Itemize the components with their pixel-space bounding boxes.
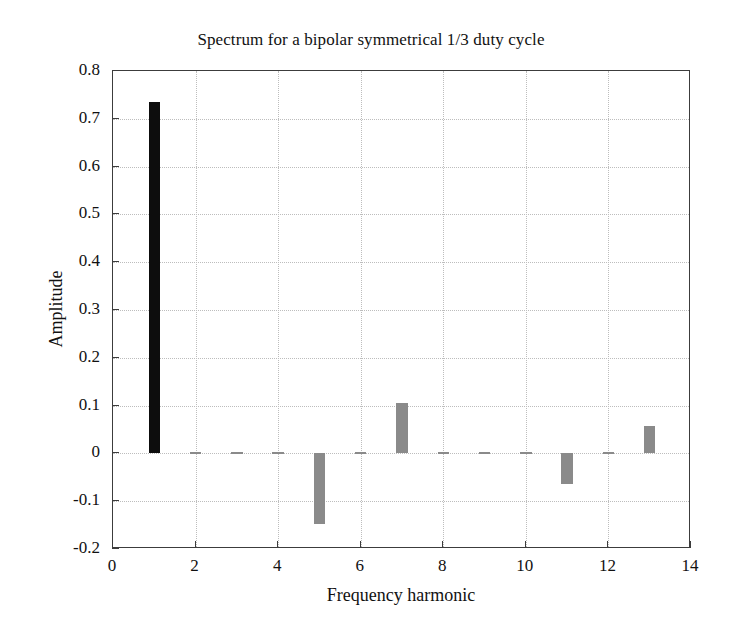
- x-axis-label: Frequency harmonic: [112, 585, 690, 606]
- x-tick-mark: [360, 541, 361, 548]
- bar-harmonic-5: [314, 453, 326, 523]
- x-tick-mark: [525, 541, 526, 548]
- y-tick-label: 0.8: [0, 60, 100, 80]
- gridline-vertical: [443, 71, 444, 547]
- y-tick-label: -0.2: [0, 538, 100, 558]
- x-tick-mark: [690, 541, 691, 548]
- chart-title: Spectrum for a bipolar symmetrical 1/3 d…: [0, 30, 742, 50]
- gridline-horizontal: [113, 167, 689, 168]
- gridline-vertical: [526, 71, 527, 547]
- y-tick-mark: [112, 405, 119, 406]
- y-tick-mark: [112, 261, 119, 262]
- gridline-horizontal: [113, 119, 689, 120]
- gridline-horizontal: [113, 358, 689, 359]
- gridline-vertical: [608, 71, 609, 547]
- y-tick-mark: [112, 118, 119, 119]
- y-tick-label: 0.7: [0, 108, 100, 128]
- y-tick-mark: [112, 500, 119, 501]
- x-axis-label-area: [112, 552, 690, 580]
- page-margin: [0, 0, 742, 14]
- y-tick-mark: [112, 548, 119, 549]
- gridline-vertical: [278, 71, 279, 547]
- bar-harmonic-10: [520, 452, 532, 454]
- gridline-horizontal: [113, 214, 689, 215]
- gridline-horizontal: [113, 501, 689, 502]
- y-tick-label: 0.4: [0, 251, 100, 271]
- bar-harmonic-4: [272, 452, 284, 454]
- plot-area: [112, 70, 690, 548]
- bar-harmonic-2: [190, 452, 202, 454]
- x-tick-mark: [277, 541, 278, 548]
- y-tick-label: 0.6: [0, 156, 100, 176]
- y-tick-label: 0.2: [0, 347, 100, 367]
- figure: Spectrum for a bipolar symmetrical 1/3 d…: [0, 0, 742, 634]
- y-tick-label: 0: [0, 442, 100, 462]
- gridline-horizontal: [113, 262, 689, 263]
- y-tick-label: 0.3: [0, 299, 100, 319]
- y-tick-label: 0.5: [0, 203, 100, 223]
- y-tick-mark: [112, 309, 119, 310]
- bar-harmonic-8: [438, 452, 450, 454]
- x-tick-mark: [195, 541, 196, 548]
- bar-harmonic-13: [644, 426, 656, 454]
- bar-harmonic-3: [231, 452, 243, 454]
- gridline-vertical: [361, 71, 362, 547]
- bar-harmonic-9: [479, 452, 491, 454]
- bar-harmonic-11: [561, 453, 573, 484]
- y-tick-mark: [112, 452, 119, 453]
- bar-harmonic-12: [603, 452, 615, 454]
- y-tick-label: 0.1: [0, 395, 100, 415]
- gridline-horizontal: [113, 310, 689, 311]
- y-tick-mark: [112, 70, 119, 71]
- x-tick-mark: [607, 541, 608, 548]
- bar-harmonic-1: [149, 102, 161, 453]
- y-tick-mark: [112, 357, 119, 358]
- bar-harmonic-6: [355, 452, 367, 454]
- x-tick-mark: [442, 541, 443, 548]
- gridline-vertical: [196, 71, 197, 547]
- x-tick-mark: [112, 541, 113, 548]
- plot-canvas: [113, 71, 689, 547]
- y-tick-mark: [112, 166, 119, 167]
- y-tick-label: -0.1: [0, 490, 100, 510]
- y-tick-mark: [112, 213, 119, 214]
- bar-harmonic-7: [396, 403, 408, 453]
